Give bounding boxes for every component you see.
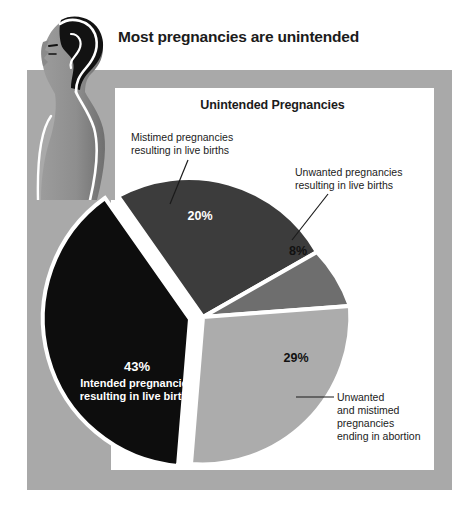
chart-title: Unintended Pregnancies <box>111 98 434 112</box>
leader-line-unwanted-live <box>286 192 332 244</box>
pie-label-intended-pct: 43% <box>57 358 217 375</box>
pie-label-intended-text: Intended pregnancies resulting in live b… <box>57 377 217 402</box>
leader-line-abortion <box>296 392 338 402</box>
callout-abortion: Unwanted and mistimed pregnancies ending… <box>337 391 420 443</box>
pie-label-intended-group: 43% Intended pregnancies resulting in li… <box>57 358 217 402</box>
callout-unwanted-live-births: Unwanted pregnancies resulting in live b… <box>295 166 402 192</box>
leader-line-mistimed <box>160 158 200 208</box>
callout-mistimed-live-births: Mistimed pregnancies resulting in live b… <box>131 131 233 157</box>
pie-label-abortion-pct: 29% <box>268 351 324 365</box>
pie-label-unwanted-live-pct: 8% <box>276 244 320 258</box>
pie-label-mistimed-pct: 20% <box>170 209 230 223</box>
infographic-root: Most pregnancies are unintended Unintend… <box>0 0 466 511</box>
page-title: Most pregnancies are unintended <box>118 28 359 46</box>
